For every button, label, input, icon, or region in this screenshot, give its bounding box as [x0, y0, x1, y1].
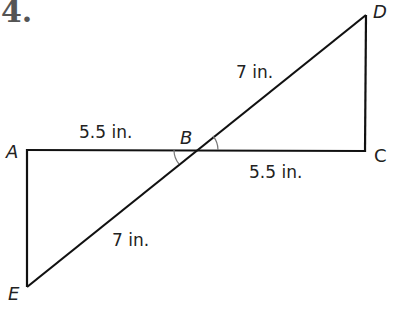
vertex-label-a: A — [5, 141, 18, 162]
vertex-label-b: B — [180, 127, 192, 148]
geometry-diagram: D A B C E 5.5 in. 5.5 in. 7 in. 7 in. — [0, 0, 395, 313]
measure-bd: 7 in. — [236, 62, 273, 82]
segment-cd — [365, 15, 366, 152]
vertex-label-c: C — [374, 145, 387, 166]
measure-bc: 5.5 in. — [249, 162, 302, 182]
angle-arc-abe — [174, 150, 179, 164]
vertex-label-e: E — [8, 283, 20, 304]
vertex-label-d: D — [373, 1, 387, 22]
measure-eb: 7 in. — [112, 230, 149, 250]
measure-ab: 5.5 in. — [79, 122, 132, 142]
